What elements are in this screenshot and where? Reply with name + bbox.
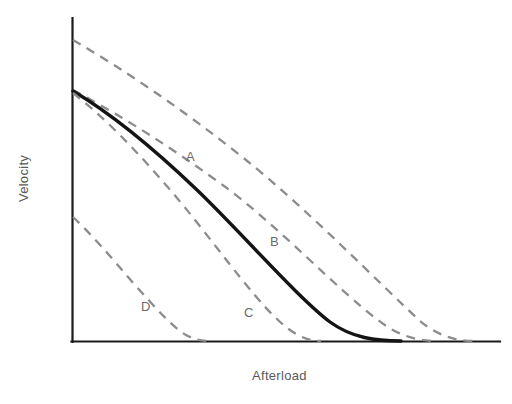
chart-canvas: A B C D	[0, 0, 512, 404]
curve-label-c: C	[244, 305, 254, 320]
curve-label-d: D	[141, 299, 151, 314]
force-velocity-figure: A B C D Velocity Afterload	[0, 0, 512, 404]
y-axis-title: Velocity	[16, 139, 31, 219]
curve-d	[73, 217, 211, 341]
curve-control	[73, 91, 401, 341]
curve-label-b: B	[270, 234, 279, 249]
curve-c	[73, 93, 321, 341]
curve-label-a: A	[186, 149, 195, 164]
x-axis-title: Afterload	[252, 368, 307, 383]
curve-a	[73, 40, 474, 341]
